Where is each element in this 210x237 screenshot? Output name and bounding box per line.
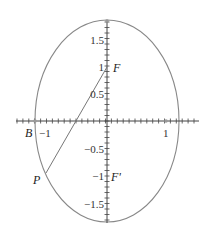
y-tick-label: −0.5 <box>84 143 104 155</box>
label-b: B <box>25 126 33 140</box>
y-tick-label: 0.5 <box>90 88 104 100</box>
label-p: P <box>32 173 41 187</box>
point-b <box>33 119 37 123</box>
y-tick-label: 1 <box>99 61 105 73</box>
ellipse-diagram: 1.5 1 0.5 −0.5 −1 −1.5 −1 1 F F' B P <box>0 0 210 237</box>
label-f: F <box>112 61 121 75</box>
y-tick-label: −1.5 <box>84 198 104 210</box>
label-f-prime: F' <box>110 170 121 184</box>
x-tick-label: 1 <box>163 127 169 139</box>
point-f-top <box>105 19 109 23</box>
y-tick-label: 1.5 <box>90 34 104 46</box>
y-tick-label: −1 <box>92 170 104 182</box>
segment-pf <box>46 67 107 173</box>
x-tick-label: −1 <box>39 127 51 139</box>
point-x1 <box>164 119 168 123</box>
